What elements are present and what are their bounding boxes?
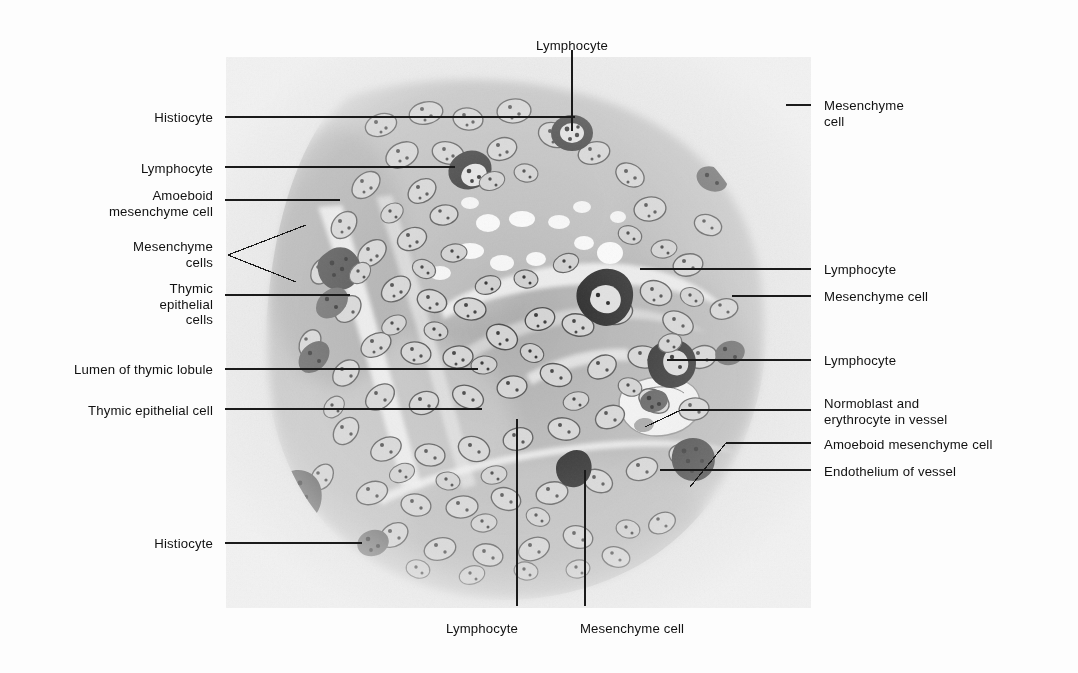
- thymic-epithelial-cell-line-0: Thymic epithelial cell: [0, 403, 213, 419]
- mesenchyme-cell-top-label: Mesenchymecell: [824, 98, 904, 129]
- thymic-epithelial-cells-line-1: epithelial: [0, 297, 213, 313]
- amoeboid-mesenchyme-label: Amoeboidmesenchyme cell: [0, 188, 213, 219]
- photomicrograph-plate: HistiocyteLymphocyteAmoeboidmesenchyme c…: [0, 0, 1078, 673]
- lymphocyte-right-1-label: Lymphocyte: [824, 262, 896, 278]
- mesenchyme-cells-line-1: cells: [0, 255, 213, 271]
- amoeboid-mesenchyme-line-1: mesenchyme cell: [0, 204, 213, 220]
- thymic-epithelial-cell-label: Thymic epithelial cell: [0, 403, 213, 419]
- mesenchyme-cells-label: Mesenchymecells: [0, 239, 213, 270]
- normoblast-erythrocyte-label: Normoblast anderythrocyte in vessel: [824, 396, 947, 427]
- tissue-section-svg: [226, 57, 811, 608]
- amoeboid-mesenchyme-r-label: Amoeboid mesenchyme cell: [824, 437, 993, 453]
- mesenchyme-cell-top-line-1: cell: [824, 114, 904, 130]
- mesenchyme-cell-right-line-0: Mesenchyme cell: [824, 289, 928, 305]
- mesenchyme-cell-bottom-label: Mesenchyme cell: [482, 621, 782, 637]
- lymphocyte-right-1-line-0: Lymphocyte: [824, 262, 896, 278]
- lymphocyte-left-label: Lymphocyte: [0, 161, 213, 177]
- lymphocyte-right-2-label: Lymphocyte: [824, 353, 896, 369]
- amoeboid-mesenchyme-line-0: Amoeboid: [0, 188, 213, 204]
- lymphocyte-right-2-line-0: Lymphocyte: [824, 353, 896, 369]
- endothelium-of-vessel-label: Endothelium of vessel: [824, 464, 956, 480]
- endothelium-of-vessel-line-0: Endothelium of vessel: [824, 464, 956, 480]
- mesenchyme-cell-top-line-0: Mesenchyme: [824, 98, 904, 114]
- thymic-epithelial-cells-label: Thymicepithelialcells: [0, 281, 213, 328]
- thymic-epithelial-cells-line-2: cells: [0, 312, 213, 328]
- photomicrograph-image: [226, 57, 811, 608]
- histiocyte-top-label: Histiocyte: [0, 110, 213, 126]
- mesenchyme-cell-right-label: Mesenchyme cell: [824, 289, 928, 305]
- lumen-thymic-lobule-line-0: Lumen of thymic lobule: [0, 362, 213, 378]
- lymphocyte-top-line-0: Lymphocyte: [422, 38, 722, 54]
- normoblast-erythrocyte-line-0: Normoblast and: [824, 396, 947, 412]
- histiocyte-top-line-0: Histiocyte: [0, 110, 213, 126]
- mesenchyme-cells-line-0: Mesenchyme: [0, 239, 213, 255]
- histiocyte-bottom-label: Histiocyte: [0, 536, 213, 552]
- histiocyte-bottom-line-0: Histiocyte: [0, 536, 213, 552]
- thymic-epithelial-cells-line-0: Thymic: [0, 281, 213, 297]
- mesenchyme-cell-bottom-line-0: Mesenchyme cell: [482, 621, 782, 637]
- lymphocyte-left-line-0: Lymphocyte: [0, 161, 213, 177]
- lymphocyte-top-label: Lymphocyte: [422, 38, 722, 54]
- normoblast-erythrocyte-line-1: erythrocyte in vessel: [824, 412, 947, 428]
- lumen-thymic-lobule-label: Lumen of thymic lobule: [0, 362, 213, 378]
- amoeboid-mesenchyme-r-line-0: Amoeboid mesenchyme cell: [824, 437, 993, 453]
